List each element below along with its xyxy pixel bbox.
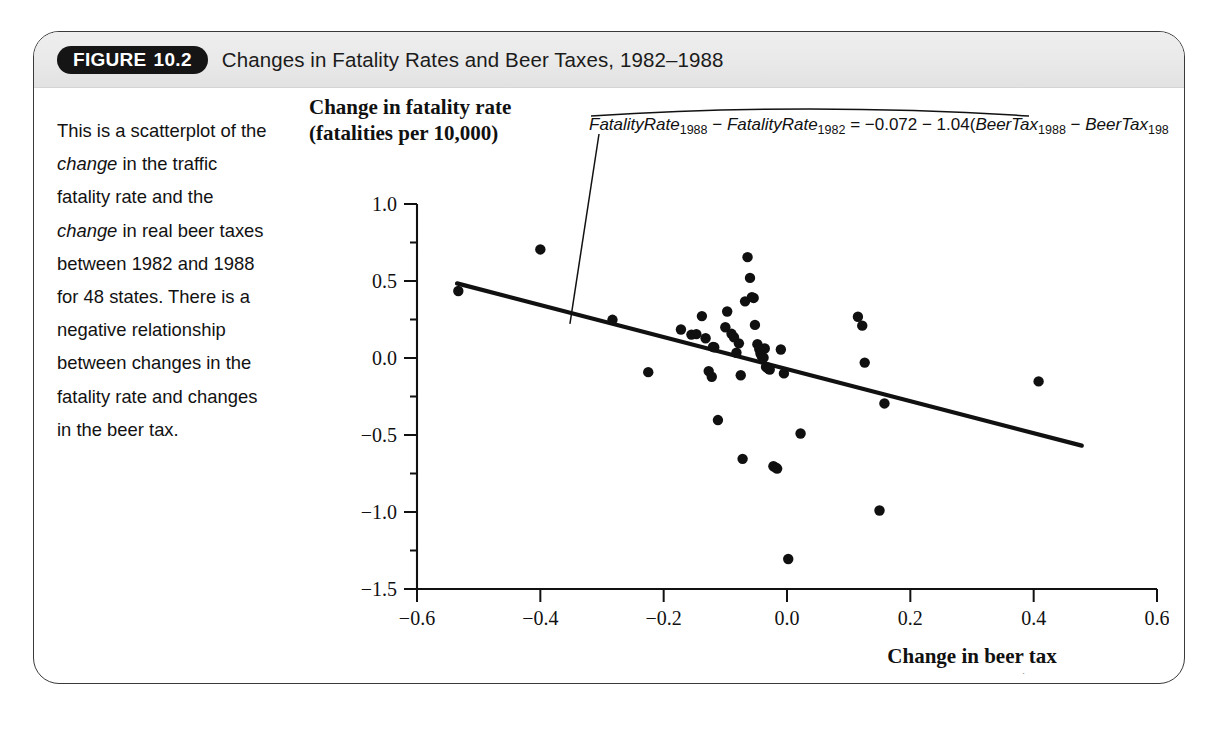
scatter-point [776,344,786,354]
x-axis-subtitle: (dollars per case $1988) [866,670,1077,674]
scatter-point [697,311,707,321]
caption-emphasis-1: change [57,153,117,174]
scatter-point [643,367,653,377]
scatter-point [607,315,617,325]
equation-segment: FatalityRate [589,115,680,134]
caption-text-3: in real beer taxes between 1982 and 1988… [57,220,264,440]
equation-segment: = −0.072 − 1.04( [845,115,975,134]
scatterplot-svg: Change in fatality rate (fatalities per … [269,94,1169,674]
y-tick-label: −1.0 [361,501,397,523]
scatter-point [860,357,870,367]
scatter-point [772,463,782,473]
x-tick-label: 0.6 [1145,607,1170,629]
scatter-point [707,372,717,382]
scatter-point [700,333,710,343]
scatter-point [713,415,723,425]
x-axis-title: Change in beer tax [887,644,1057,668]
y-tick-label: 1.0 [372,193,397,215]
scatter-point [874,505,884,515]
scatter-point [765,364,775,374]
scatter-point [795,428,805,438]
x-tick-label: 0.4 [1021,607,1046,629]
caption-emphasis-2: change [57,220,117,241]
scatter-point [745,273,755,283]
scatter-point [742,252,752,262]
equation-segment: − [708,115,727,134]
data-points [453,244,1044,564]
scatter-point [453,286,463,296]
scatter-point [709,342,719,352]
scatter-point [750,320,760,330]
equation-segment: FatalityRate [727,115,818,134]
scatter-point [535,244,545,254]
x-tick-label: −0.2 [646,607,682,629]
regression-equation-label: FatalityRate1988 − FatalityRate1982 = −0… [589,115,1169,137]
scatter-point [879,398,889,408]
scatter-point [758,352,768,362]
scatter-point [734,338,744,348]
equation-segment: BeerTax [975,115,1038,134]
figure-card: FIGURE 10.2 Changes in Fatality Rates an… [33,31,1185,684]
scatter-point [676,324,686,334]
figure-badge-word: FIGURE [73,49,147,71]
x-tick-label: −0.6 [399,607,435,629]
caption-text-1: This is a scatterplot of the [57,120,267,141]
scatter-point [736,370,746,380]
equation-subscript: 1988 [680,123,708,137]
scatter-point [857,320,867,330]
y-axis-ticks: 1.00.50.0−0.5−1.0−1.5 [361,193,417,600]
scatter-point [1033,376,1043,386]
x-axis-ticks: −0.6−0.4−0.20.00.20.40.6 [399,589,1169,629]
scatter-point [737,454,747,464]
scatter-point [749,293,759,303]
figure-badge-number: 10.2 [154,49,192,71]
scatterplot: Change in fatality rate (fatalities per … [269,94,1169,674]
equation-segment: − [1066,115,1085,134]
x-tick-label: −0.4 [522,607,558,629]
x-tick-label: 0.2 [898,607,923,629]
figure-number-badge: FIGURE 10.2 [57,46,208,74]
scatter-point [779,368,789,378]
y-tick-label: 0.5 [372,270,397,292]
y-tick-label: 0.0 [372,347,397,369]
figure-header-bar: FIGURE 10.2 Changes in Fatality Rates an… [34,32,1184,88]
y-tick-label: −1.5 [361,578,397,600]
equation-subscript: 1982 [818,123,846,137]
scatter-point [760,343,770,353]
y-axis-title: Change in fatality rate [309,95,511,119]
annotation-leader-line [570,134,599,324]
scatter-point [731,348,741,358]
figure-title: Changes in Fatality Rates and Beer Taxes… [222,48,724,72]
scatter-point [722,306,732,316]
axes [417,204,1157,589]
scatter-point [783,554,793,564]
scatter-point [691,329,701,339]
equation-subscript: 1988 [1038,123,1066,137]
equation-subscript: 1982 [1148,123,1169,137]
y-tick-label: −0.5 [361,424,397,446]
x-tick-label: 0.0 [775,607,800,629]
scatter-point [853,312,863,322]
figure-caption: This is a scatterplot of the change in t… [57,114,269,446]
equation-segment: BeerTax [1085,115,1148,134]
y-axis-subtitle: (fatalities per 10,000) [309,121,498,145]
